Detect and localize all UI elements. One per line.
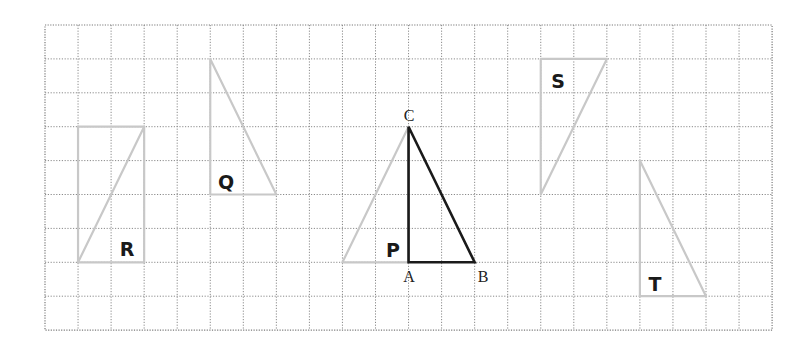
- label-q: Q: [218, 171, 234, 193]
- label-t: T: [649, 273, 662, 295]
- grid-diagram: P Q R S T A B C: [0, 0, 808, 350]
- label-r: R: [120, 238, 135, 260]
- vertex-label-a: A: [403, 268, 415, 285]
- vertex-label-b: B: [478, 268, 489, 285]
- vertex-label-c: C: [404, 107, 415, 124]
- label-p: P: [386, 239, 400, 261]
- label-s: S: [551, 70, 565, 92]
